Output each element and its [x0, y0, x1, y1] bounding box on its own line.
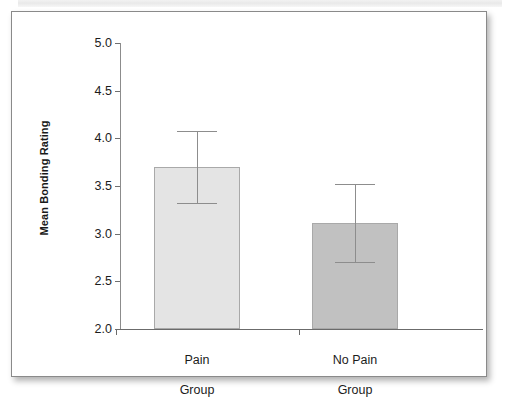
plot-area: Mean Bonding Rating 5.0 4.5 4.0 3.5 3.0 …: [12, 12, 486, 376]
y-tick-label: 3.5: [78, 180, 112, 193]
y-axis-line: [120, 43, 121, 330]
x-category-label-line2: Group: [305, 383, 405, 397]
x-category-label-line2: Group: [147, 383, 247, 397]
x-category-label-line1: Pain: [147, 353, 247, 368]
y-tick-label: 3.0: [78, 228, 112, 241]
x-tick-mark: [116, 330, 117, 335]
x-tick-mark: [299, 330, 300, 335]
error-bar-stem-no-pain-group: [355, 184, 356, 262]
x-category-label-pain-group: Pain Group: [147, 338, 247, 397]
y-axis-title: Mean Bonding Rating: [38, 98, 50, 258]
scan-artifact-strip: [18, 0, 502, 7]
y-tick-label: 4.5: [78, 85, 112, 98]
y-tick-label: 5.0: [78, 37, 112, 50]
error-bar-cap-lower-pain-group: [177, 203, 217, 204]
error-bar-stem-pain-group: [197, 131, 198, 203]
figure-card: Mean Bonding Rating 5.0 4.5 4.0 3.5 3.0 …: [11, 11, 487, 377]
x-category-label-line1: No Pain: [305, 353, 405, 368]
y-tick-label: 4.0: [78, 132, 112, 145]
error-bar-cap-upper-pain-group: [177, 131, 217, 132]
y-axis-tick-labels: 5.0 4.5 4.0 3.5 3.0 2.5 2.0: [72, 12, 112, 376]
x-category-label-no-pain-group: No Pain Group: [305, 338, 405, 397]
y-tick-label: 2.5: [78, 275, 112, 288]
error-bar-cap-lower-no-pain-group: [335, 262, 375, 263]
y-tick-label: 2.0: [78, 323, 112, 336]
error-bar-cap-upper-no-pain-group: [335, 184, 375, 185]
